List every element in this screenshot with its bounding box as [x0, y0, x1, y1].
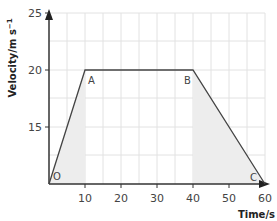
point-label-c: C	[250, 172, 257, 183]
x-tick-10: 10	[78, 192, 92, 205]
point-label-a: A	[88, 75, 95, 86]
y-axis-title: Velocity/m s−1	[6, 18, 18, 97]
y-tick-25: 25	[28, 7, 42, 20]
x-axis-title: Time/s	[238, 209, 275, 220]
x-tick-30: 30	[150, 192, 164, 205]
x-tick-20: 20	[114, 192, 128, 205]
point-label-o: O	[53, 171, 61, 182]
velocity-time-chart: 25 20 15 10 20 30 40 50 60 O A B C Time/…	[0, 0, 277, 221]
point-label-b: B	[184, 75, 191, 86]
x-tick-40: 40	[186, 192, 200, 205]
y-tick-20: 20	[28, 64, 42, 77]
x-tick-50: 50	[222, 192, 236, 205]
x-tick-60: 60	[258, 192, 272, 205]
y-tick-15: 15	[28, 121, 42, 134]
y-axis-arrow-icon	[45, 9, 53, 20]
